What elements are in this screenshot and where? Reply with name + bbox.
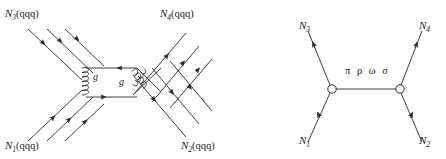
label-N4-qqq: N4(qqq)	[160, 8, 194, 22]
left-interaction-vertex	[328, 85, 336, 93]
right-diagram-external-legs	[308, 31, 422, 142]
gluon-propagator-right	[129, 68, 160, 91]
label-N2: N2	[419, 135, 430, 149]
gluon-label-left: g	[93, 72, 98, 82]
figure-canvas: N3(qqq) N4(qqq) N1(qqq) N2(qqq) g g N3 N…	[0, 0, 446, 159]
label-N2-qqq: N2(qqq)	[181, 140, 215, 154]
right-interaction-vertex	[396, 85, 404, 93]
label-N3-qqq: N3(qqq)	[5, 8, 39, 22]
left-outgoing-nucleon-N4-arrowheads	[165, 55, 198, 72]
label-N3: N3	[299, 20, 310, 34]
label-N1: N1	[299, 135, 310, 149]
meson-exchange-label: π ρ ω σ	[345, 66, 390, 77]
label-N4: N4	[419, 20, 430, 34]
left-incoming-nucleon-N1-quark-lines	[28, 90, 104, 141]
feynman-diagram-svg	[0, 0, 446, 159]
left-incoming-nucleon-N1-arrowheads	[51, 117, 86, 123]
left-incoming-nucleon-N3-arrowheads	[41, 37, 78, 43]
gluon-label-right: g	[119, 77, 124, 87]
label-N1-qqq: N1(qqq)	[5, 140, 39, 154]
gluon-propagator-left	[82, 67, 89, 95]
